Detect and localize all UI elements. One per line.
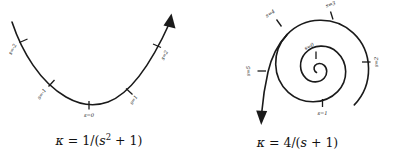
tick-mark-s-minus-2 [20,39,28,43]
tick-label-s-minus-1: s=-1 [36,87,48,100]
formula-left-equals: = [68,133,78,148]
tick-label-s-2: s=2 [159,49,169,61]
formula-right-close-paren: ) [333,135,338,150]
tick-label-s-0: s=0 [84,112,95,118]
tick-label-spiral-s-1: s=1 [317,110,327,116]
curvature-figure: s=-2 s=-1 s=0 s=1 s=2 κ = 1/(s2 + 1) [0,0,397,156]
parabola-svg: s=-2 s=-1 s=0 s=1 s=2 [0,0,198,130]
tick-mark-spiral-s-3 [331,12,334,20]
formula-left-constant: 1 [130,133,138,148]
spiral-arrowhead-icon [256,111,267,126]
spiral-path [276,20,369,105]
spiral-svg: s=0 s=1 s=2 s=3 s=4 s=5 [198,0,397,132]
tick-label-spiral-s-3: s=3 [325,0,337,8]
formula-right-equals: = [269,135,279,150]
parabola-path [12,22,170,105]
spiral-tail-path [262,35,287,112]
formula-right-kappa: κ [257,135,265,150]
tick-mark-spiral-s-4 [277,20,282,27]
formula-left-plus: + [115,133,125,148]
tick-label-spiral-s-2: s=2 [373,57,379,67]
formula-left-kappa: κ [56,133,64,148]
formula-left-curvature: κ = 1/(s2 + 1) [0,133,198,148]
formula-left-close-paren: ) [138,133,143,148]
tick-label-s-1: s=1 [128,94,139,106]
tick-label-spiral-s-5: s=5 [245,66,251,76]
formula-right-base: s [301,135,307,150]
formula-right-curvature: κ = 4/(s + 1) [198,135,397,150]
tick-mark-s-1 [126,89,133,95]
formula-right-plus: + [311,135,321,150]
parabola-curve-panel: s=-2 s=-1 s=0 s=1 s=2 κ = 1/(s2 + 1) [0,0,198,156]
formula-left-numerator: 1 [82,133,90,148]
spiral-curve-panel: s=0 s=1 s=2 s=3 s=4 s=5 κ = 4/(s + 1) [198,0,397,156]
parabola-arrowhead-icon [164,14,176,29]
formula-left-exponent: 2 [106,132,111,142]
tick-label-spiral-s-4: s=4 [264,8,276,18]
tick-label-s-minus-2: s=-2 [7,42,18,55]
